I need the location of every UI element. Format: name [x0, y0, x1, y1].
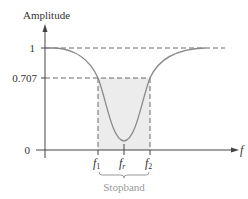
- y-axis-label: Amplitude: [23, 9, 70, 21]
- x-axis-label: f: [240, 143, 245, 157]
- y-tick-label-1: 1: [30, 42, 36, 54]
- x-tick-label-f1: f1: [93, 156, 100, 171]
- x-axis-arrow-icon: [231, 148, 239, 153]
- stopband-label: Stopband: [103, 181, 145, 193]
- stopband-chart: Amplitude 1 0.707 0 f f1 fr f2 Stopband: [0, 0, 248, 199]
- y-tick-label-0707: 0.707: [12, 72, 37, 84]
- y-axis-arrow-icon: [43, 24, 48, 32]
- y-tick-label-0: 0: [25, 144, 31, 156]
- x-tick-label-fr: fr: [119, 156, 126, 171]
- stopband-bracket: [99, 172, 149, 178]
- stopband-shade: [98, 78, 150, 150]
- x-tick-label-f2: f2: [145, 156, 152, 171]
